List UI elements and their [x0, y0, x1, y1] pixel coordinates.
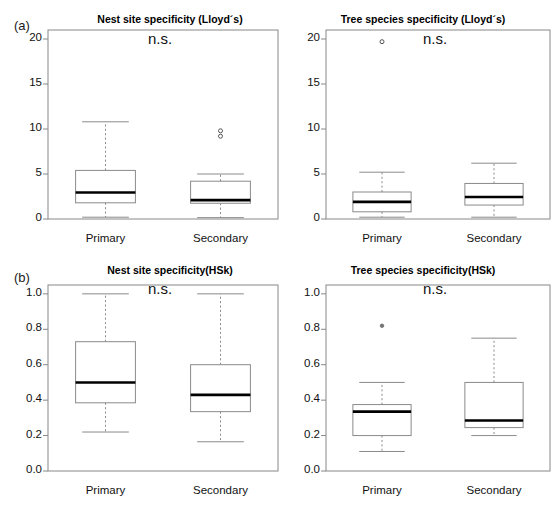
- y-axis-tick-label: 15: [0, 76, 42, 88]
- significance-annotation: n.s.: [148, 280, 172, 297]
- panel-title: Nest site specificity(HSk): [55, 264, 285, 276]
- y-axis-tick-label: 0.6: [0, 357, 42, 369]
- x-axis-category-label: Secondary: [449, 232, 539, 244]
- y-axis-tick-label: 0.8: [0, 321, 42, 333]
- outlier-point: [380, 324, 384, 328]
- y-axis-tick-label: 0.8: [278, 321, 320, 333]
- y-axis-tick-label: 0.0: [0, 463, 42, 475]
- boxplot-figure: (a) (b) Nest site specificity (Lloyd´s) …: [0, 0, 556, 515]
- y-axis-tick-label: 20: [278, 31, 320, 43]
- box-iqr: [76, 342, 136, 403]
- x-axis-category-label: Primary: [337, 484, 427, 496]
- y-axis-tick-label: 5: [278, 166, 320, 178]
- box-iqr: [76, 170, 136, 202]
- y-axis-tick-label: 5: [0, 166, 42, 178]
- y-axis-tick-label: 1.0: [0, 286, 42, 298]
- panel-tree-species-hsk: Tree species specificity(HSk) n.s. 0.00.…: [278, 252, 556, 515]
- panel-nest-site-hsk: Nest site specificity(HSk) n.s. 0.00.20.…: [0, 252, 285, 515]
- y-axis-tick-label: 0: [0, 211, 42, 223]
- y-axis-tick-label: 10: [278, 121, 320, 133]
- x-axis-category-label: Primary: [337, 232, 427, 244]
- panel-tree-species-lloyds: Tree species specificity (Lloyd´s) n.s. …: [278, 0, 556, 258]
- panel-title: Tree species specificity(HSk): [298, 264, 548, 276]
- significance-annotation: n.s.: [423, 280, 447, 297]
- x-axis-category-label: Secondary: [176, 484, 266, 496]
- panel-title: Tree species specificity (Lloyd´s): [298, 13, 548, 25]
- outlier-point: [219, 134, 223, 138]
- y-axis-tick-label: 20: [0, 31, 42, 43]
- x-axis-category-label: Secondary: [449, 484, 539, 496]
- panel-nest-site-lloyds: Nest site specificity (Lloyd´s) n.s. 051…: [0, 0, 285, 258]
- y-axis-tick-label: 0.2: [278, 428, 320, 440]
- box-iqr: [191, 365, 251, 412]
- y-axis-tick-label: 0.0: [278, 463, 320, 475]
- y-axis-tick-label: 0: [278, 211, 320, 223]
- y-axis-tick-label: 15: [278, 76, 320, 88]
- plot-frame: [326, 285, 550, 471]
- x-axis-category-label: Primary: [61, 232, 151, 244]
- box-iqr: [353, 405, 411, 436]
- x-axis-category-label: Primary: [61, 484, 151, 496]
- x-axis-category-label: Secondary: [176, 232, 266, 244]
- plot-area: [0, 252, 285, 515]
- outlier-point: [219, 129, 223, 133]
- y-axis-tick-label: 0.2: [0, 428, 42, 440]
- significance-annotation: n.s.: [423, 30, 447, 47]
- y-axis-tick-label: 1.0: [278, 286, 320, 298]
- plot-area: [0, 0, 285, 258]
- panel-title: Nest site specificity (Lloyd´s): [55, 13, 285, 25]
- y-axis-tick-label: 10: [0, 121, 42, 133]
- y-axis-tick-label: 0.4: [278, 392, 320, 404]
- significance-annotation: n.s.: [148, 30, 172, 47]
- y-axis-tick-label: 0.4: [0, 392, 42, 404]
- y-axis-tick-label: 0.6: [278, 357, 320, 369]
- outlier-point: [380, 40, 384, 44]
- box-iqr: [465, 183, 523, 205]
